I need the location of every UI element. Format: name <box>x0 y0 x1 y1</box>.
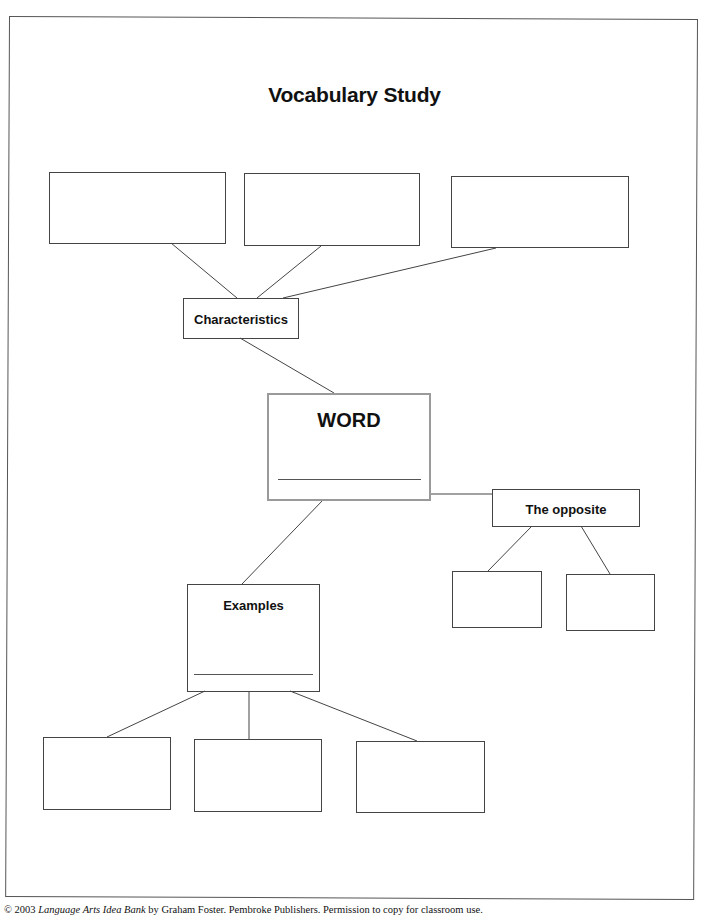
word-label: WORD <box>269 409 429 432</box>
footer-suffix: by Graham Foster. Pembroke Publishers. P… <box>146 904 483 915</box>
examples-label: Examples <box>188 598 319 613</box>
examples-node: Examples <box>187 584 320 692</box>
opposite-answer-box-1[interactable] <box>452 571 542 628</box>
footer-prefix: © 2003 <box>4 904 38 915</box>
opposite-answer-box-2[interactable] <box>566 574 655 631</box>
characteristics-node: Characteristics <box>183 298 299 339</box>
word-answer-line[interactable] <box>278 479 421 480</box>
copyright-footer: © 2003 Language Arts Idea Bank by Graham… <box>4 904 483 915</box>
characteristic-answer-box-2[interactable] <box>244 173 420 246</box>
opposite-node: The opposite <box>492 489 640 527</box>
example-answer-box-1[interactable] <box>43 737 171 810</box>
characteristic-answer-box-3[interactable] <box>451 176 629 248</box>
characteristic-answer-box-1[interactable] <box>49 172 226 244</box>
examples-answer-line[interactable] <box>194 674 313 675</box>
word-node: WORD <box>267 393 431 501</box>
example-answer-box-3[interactable] <box>356 741 485 813</box>
opposite-label: The opposite <box>493 502 639 517</box>
example-answer-box-2[interactable] <box>194 739 322 812</box>
characteristics-label: Characteristics <box>184 312 298 327</box>
footer-book-title: Language Arts Idea Bank <box>38 904 145 915</box>
